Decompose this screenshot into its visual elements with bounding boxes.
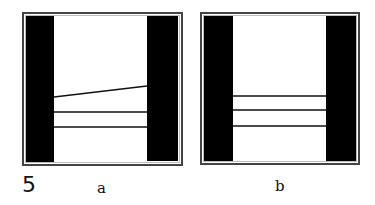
panel-a-lines [54,86,147,127]
panel-b-label: b [275,179,285,194]
panel-a-sloped-line [54,86,147,97]
figure-number: 5 [22,174,36,196]
panel-a-label: a [97,181,106,196]
panel-b-lines [233,96,326,126]
connecting-lines [0,0,375,205]
